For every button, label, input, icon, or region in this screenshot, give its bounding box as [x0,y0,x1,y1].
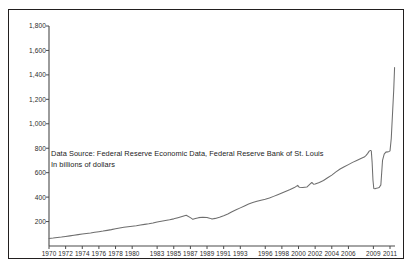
x-tick-label: 1980 [125,250,140,258]
figure-title [0,0,413,9]
chart-frame: 1,8001,6001,4001,2001,000800600400200 19… [8,9,404,259]
x-tick-label: 1996 [258,250,273,258]
x-tick-label: 1985 [166,250,181,258]
plot-area: 1,8001,6001,4001,2001,000800600400200 19… [9,10,405,260]
x-tick-label: 1970 [42,250,57,258]
x-tick-label: 1978 [108,250,123,258]
source-annotation: Data Source: Federal Reserve Economic Da… [51,149,351,170]
x-tick-label: 2011 [383,250,397,258]
x-tick-label: 2002 [308,250,323,258]
x-tick-label: 2004 [324,250,339,258]
x-tick-label: 1976 [92,250,107,258]
x-tick-label: 2009 [366,250,381,258]
x-tick-label: 1972 [58,250,73,258]
x-tick-label: 1989 [200,250,215,258]
x-tick-label: 2000 [291,250,306,258]
x-tick-label: 1991 [216,250,231,258]
x-tick-label: 1998 [275,250,290,258]
x-tick-label: 1983 [150,250,165,258]
x-tick-label: 1987 [183,250,198,258]
x-axis-labels: 1970197219741976197819801983198519871989… [9,10,405,260]
chart-figure: 1,8001,6001,4001,2001,000800600400200 19… [0,0,413,266]
x-tick-label: 1993 [233,250,248,258]
x-tick-label: 1974 [75,250,90,258]
annotation-line-1: Data Source: Federal Reserve Economic Da… [51,149,351,160]
annotation-line-2: In billions of dollars [51,160,351,171]
x-tick-label: 2006 [341,250,356,258]
